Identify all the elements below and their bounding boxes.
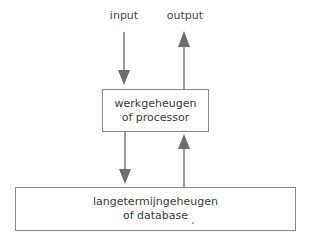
working-memory-line1: werkgeheugen bbox=[115, 97, 197, 111]
long-term-memory-line2: of database bbox=[123, 209, 188, 223]
input-arrow-icon bbox=[118, 32, 130, 85]
scan-speck bbox=[192, 222, 194, 224]
working-memory-box: werkgeheugen of processor bbox=[102, 89, 209, 132]
output-arrow-icon bbox=[178, 31, 190, 89]
retrieve-arrow-icon bbox=[178, 134, 190, 188]
working-memory-line2: of processor bbox=[122, 111, 190, 125]
long-term-memory-box: langetermijngeheugen of database bbox=[15, 187, 296, 231]
long-term-memory-line1: langetermijngeheugen bbox=[93, 195, 218, 209]
store-arrow-icon bbox=[119, 131, 131, 184]
